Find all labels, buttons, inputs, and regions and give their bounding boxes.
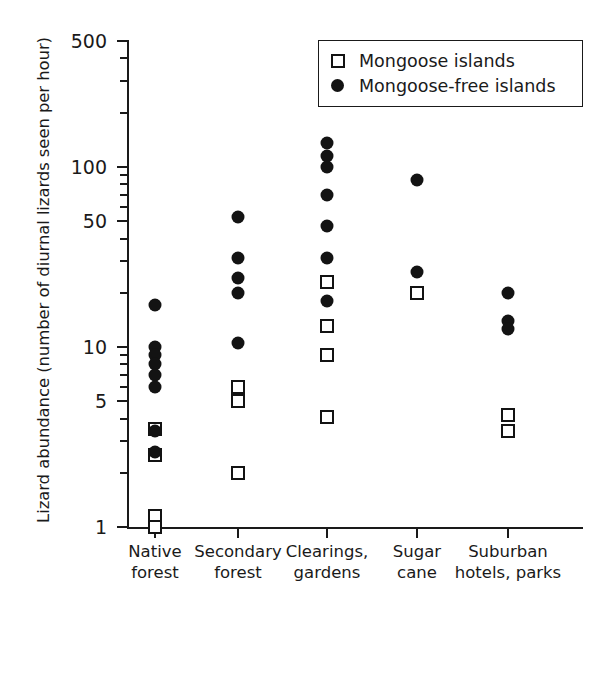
y-axis-minor-tick [120, 174, 128, 176]
data-point-mongoose-free-island [321, 252, 334, 265]
data-point-mongoose-free-island [502, 286, 515, 299]
data-point-mongoose-free-island [149, 299, 162, 312]
y-axis-tick-label: 500 [45, 30, 107, 52]
category-label-line1: Suburban [438, 541, 578, 562]
x-axis-tick [416, 528, 418, 538]
category-label-line2: hotels, parks [438, 562, 578, 583]
data-point-mongoose-free-island [502, 323, 515, 336]
y-axis-major-tick [117, 526, 128, 528]
data-point-mongoose-free-island [321, 137, 334, 150]
y-axis-minor-tick [120, 112, 128, 114]
y-axis-minor-tick [120, 440, 128, 442]
y-axis-minor-tick [120, 354, 128, 356]
legend-item-mongoose-islands: Mongoose islands [331, 48, 572, 73]
y-axis-major-tick [117, 40, 128, 42]
y-axis-minor-tick [120, 206, 128, 208]
chart-legend: Mongoose islands Mongoose-free islands [318, 40, 583, 107]
y-axis-major-tick [117, 166, 128, 168]
data-point-mongoose-free-island [232, 337, 245, 350]
data-point-mongoose-free-island [232, 272, 245, 285]
data-point-mongoose-free-island [149, 425, 162, 438]
y-axis-minor-tick [120, 57, 128, 59]
data-point-mongoose-free-island [321, 188, 334, 201]
y-axis-title: Lizard abundance (number of diurnal liza… [26, 0, 60, 560]
data-point-mongoose-free-island [232, 252, 245, 265]
data-point-mongoose-free-island [411, 174, 424, 187]
y-axis-minor-tick [120, 183, 128, 185]
y-axis-major-tick [117, 346, 128, 348]
data-point-mongoose-island [148, 520, 162, 534]
y-axis-tick-label: 50 [45, 210, 107, 232]
x-axis-tick [507, 528, 509, 538]
data-point-mongoose-free-island [321, 160, 334, 173]
x-axis-line [127, 527, 583, 529]
y-axis-major-tick [117, 400, 128, 402]
y-axis-minor-tick [120, 260, 128, 262]
x-axis-category-label: Suburbanhotels, parks [438, 541, 578, 583]
data-point-mongoose-free-island [232, 286, 245, 299]
data-point-mongoose-island [501, 424, 515, 438]
data-point-mongoose-free-island [149, 446, 162, 459]
data-point-mongoose-free-island [149, 368, 162, 381]
data-point-mongoose-island [410, 286, 424, 300]
data-point-mongoose-island [320, 319, 334, 333]
y-axis-tick-label: 10 [45, 336, 107, 358]
legend-label: Mongoose-free islands [359, 76, 556, 96]
chart-figure: Lizard abundance (number of diurnal liza… [0, 0, 603, 686]
legend-item-mongoose-free-islands: Mongoose-free islands [331, 73, 572, 98]
data-point-mongoose-island [231, 466, 245, 480]
y-axis-tick-label: 5 [45, 390, 107, 412]
data-point-mongoose-island [231, 380, 245, 394]
x-axis-tick [326, 528, 328, 538]
y-axis-minor-tick [120, 80, 128, 82]
y-axis-minor-tick [120, 363, 128, 365]
data-point-mongoose-free-island [149, 380, 162, 393]
filled-circle-icon [331, 79, 359, 92]
data-point-mongoose-free-island [321, 219, 334, 232]
y-axis-minor-tick [120, 292, 128, 294]
data-point-mongoose-island [320, 348, 334, 362]
y-axis-minor-tick [120, 418, 128, 420]
data-point-mongoose-free-island [232, 210, 245, 223]
data-point-mongoose-island [231, 394, 245, 408]
y-axis-tick-label: 100 [45, 156, 107, 178]
y-axis-minor-tick [120, 386, 128, 388]
y-axis-major-tick [117, 220, 128, 222]
data-point-mongoose-island [320, 410, 334, 424]
open-square-icon [331, 54, 359, 68]
y-axis-minor-tick [120, 472, 128, 474]
data-point-mongoose-free-island [411, 266, 424, 279]
disturbance-gradient-annotation: Undisturbed Habitat types Highly disturb… [0, 604, 603, 674]
y-axis-minor-tick [120, 194, 128, 196]
data-point-mongoose-free-island [321, 294, 334, 307]
y-axis-minor-tick [120, 238, 128, 240]
y-axis-minor-tick [120, 374, 128, 376]
data-point-mongoose-island [501, 408, 515, 422]
x-axis-tick [237, 528, 239, 538]
data-point-mongoose-island [320, 275, 334, 289]
legend-label: Mongoose islands [359, 51, 515, 71]
y-axis-tick-label: 1 [45, 516, 107, 538]
